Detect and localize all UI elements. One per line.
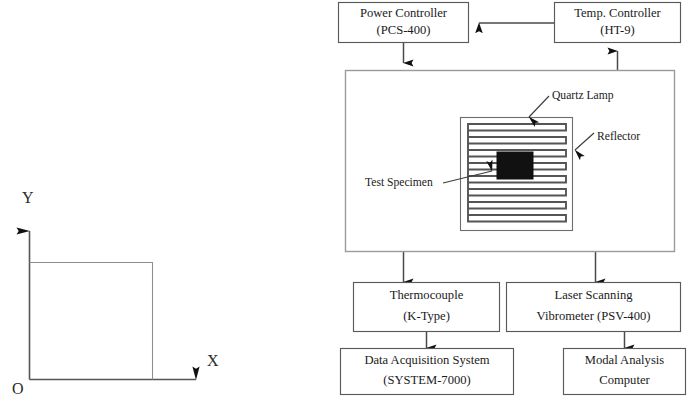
block-modal-computer[interactable]: Modal Analysis Computer [564, 349, 686, 395]
test-specimen-label: Test Specimen [365, 176, 433, 189]
block-data-acquisition-line1: Data Acquisition System [364, 353, 489, 367]
block-laser-vibrometer-line2: Vibrometer (PSV-400) [537, 309, 651, 323]
block-modal-computer-line2: Computer [599, 373, 650, 387]
left-panel-group: Y X O [12, 189, 219, 397]
block-power-controller[interactable]: Power Controller (PCS-400) [339, 3, 469, 43]
test-specimen-rect [497, 152, 533, 179]
block-modal-computer-line1: Modal Analysis [585, 353, 665, 367]
reflector-label: Reflector [597, 130, 640, 143]
block-temp-controller[interactable]: Temp. Controller (HT-9) [555, 3, 681, 43]
origin-label: O [12, 380, 24, 397]
block-thermocouple-line2: (K-Type) [403, 309, 450, 323]
block-temp-controller-line1: Temp. Controller [574, 6, 661, 20]
quartz-lamp-label: Quartz Lamp [552, 89, 614, 102]
plate-outline [30, 263, 153, 380]
experimental-setup-diagram: Y X O Power Controller (PCS-400) [0, 0, 688, 406]
x-axis-label: X [207, 352, 219, 369]
block-thermocouple[interactable]: Thermocouple (K-Type) [354, 283, 500, 332]
y-axis-label: Y [22, 189, 34, 206]
block-laser-vibrometer[interactable]: Laser Scanning Vibrometer (PSV-400) [507, 283, 681, 332]
heating-chamber: Quartz Lamp Reflector Test Specimen [346, 71, 675, 252]
block-temp-controller-line2: (HT-9) [600, 23, 635, 37]
block-thermocouple-line1: Thermocouple [390, 288, 464, 302]
figure-root: Y X O Power Controller (PCS-400) [0, 0, 688, 406]
block-power-controller-line1: Power Controller [360, 6, 448, 20]
block-data-acquisition[interactable]: Data Acquisition System (SYSTEM-7000) [341, 349, 514, 395]
block-laser-vibrometer-line1: Laser Scanning [555, 288, 634, 302]
block-data-acquisition-line2: (SYSTEM-7000) [383, 373, 470, 387]
block-power-controller-line2: (PCS-400) [377, 23, 431, 37]
